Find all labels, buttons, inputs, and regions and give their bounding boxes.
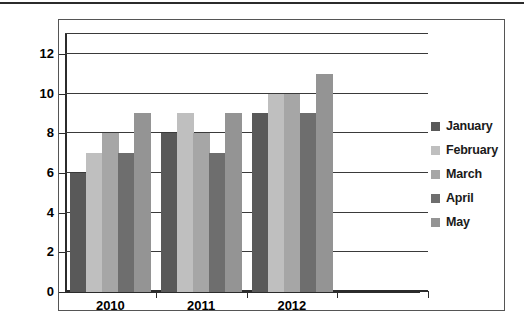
x-axis-label: 2011	[156, 299, 247, 312]
bar	[300, 113, 317, 292]
bar	[86, 153, 103, 292]
y-axis-label: 6	[24, 166, 54, 179]
x-tick	[428, 291, 429, 298]
y-tick-4	[59, 213, 66, 214]
legend-swatch-icon	[431, 170, 440, 179]
gridline-8	[65, 132, 428, 133]
bar	[209, 153, 226, 292]
legend-label: April	[446, 191, 473, 205]
y-axis-label: 4	[24, 206, 54, 219]
y-axis-label: 0	[24, 285, 54, 298]
bar	[316, 74, 333, 292]
bar	[268, 94, 285, 292]
x-tick	[247, 291, 248, 298]
y-axis-label: 10	[24, 87, 54, 100]
legend-label: February	[446, 143, 498, 157]
bar	[118, 153, 135, 292]
y-tick-0	[59, 292, 66, 293]
legend-item: February	[431, 138, 498, 162]
legend-item: January	[431, 114, 498, 138]
bar	[252, 113, 269, 292]
y-axis-labels: 024681012	[22, 0, 54, 331]
gridline-10	[65, 93, 428, 94]
bar	[284, 94, 301, 292]
x-tick	[337, 291, 338, 298]
bar	[177, 113, 194, 292]
y-tick-2	[59, 252, 66, 253]
y-tick-12	[59, 54, 66, 55]
x-tick	[156, 291, 157, 298]
chart-legend: JanuaryFebruaryMarchAprilMay	[431, 114, 498, 234]
legend-swatch-icon	[431, 122, 440, 131]
y-tick-6	[59, 173, 66, 174]
plot-area	[65, 34, 428, 292]
legend-swatch-icon	[431, 218, 440, 227]
y-tick-10	[59, 94, 66, 95]
y-tick-8	[59, 133, 66, 134]
bar	[134, 113, 151, 292]
x-axis-label: 2010	[65, 299, 156, 312]
legend-item: March	[431, 162, 498, 186]
legend-swatch-icon	[431, 146, 440, 155]
bar	[161, 133, 178, 292]
legend-swatch-icon	[431, 194, 440, 203]
legend-label: March	[446, 167, 482, 181]
y-axis-label: 12	[24, 47, 54, 60]
x-axis-label: 2012	[247, 299, 338, 312]
bar	[70, 173, 87, 292]
legend-item: May	[431, 210, 498, 234]
y-axis-label: 8	[24, 126, 54, 139]
legend-item: April	[431, 186, 498, 210]
y-axis-label: 2	[24, 245, 54, 258]
gridline-12	[65, 53, 428, 54]
legend-label: January	[446, 119, 493, 133]
gridline-13	[65, 33, 428, 34]
bar	[193, 133, 210, 292]
bar	[225, 113, 242, 292]
top-rule	[0, 2, 524, 4]
bar	[102, 133, 119, 292]
legend-label: May	[446, 215, 470, 229]
